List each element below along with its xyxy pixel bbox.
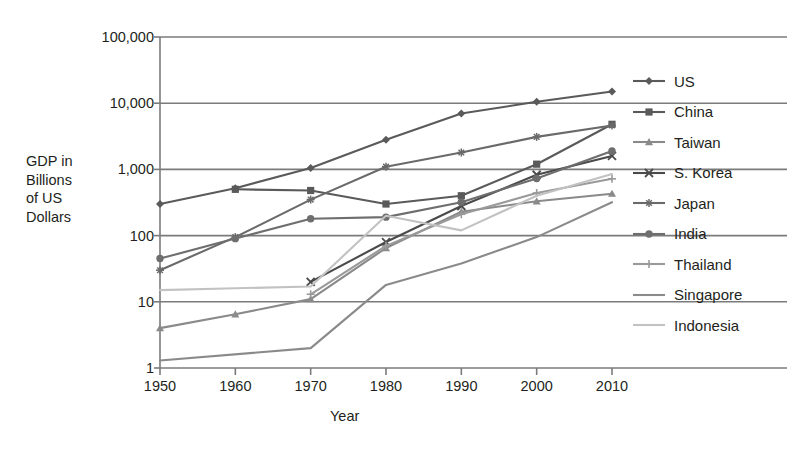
legend-item-singapore[interactable]: Singapore: [632, 280, 787, 311]
asterisk-marker-icon: [382, 163, 390, 171]
plus-marker-icon: [632, 257, 666, 271]
legend-item-india[interactable]: India: [632, 219, 787, 250]
x-tick-label: 1950: [144, 378, 176, 394]
diamond-marker-icon: [608, 88, 616, 96]
asterisk-marker-icon: [307, 196, 315, 204]
x-tick-label: 1960: [219, 378, 251, 394]
x-tick-label: 1990: [445, 378, 477, 394]
legend-item-label: Indonesia: [674, 317, 739, 334]
plus-marker-icon: [645, 260, 653, 268]
circle-marker-icon: [307, 215, 314, 222]
square-marker-icon: [533, 161, 540, 168]
circle-marker-icon: [533, 175, 540, 182]
legend-item-s-korea[interactable]: S. Korea: [632, 158, 787, 189]
circle-marker-icon: [645, 230, 652, 237]
legend-item-label: Singapore: [674, 286, 742, 303]
legend-item-label: S. Korea: [674, 164, 732, 181]
square-marker-icon: [307, 187, 314, 194]
legend-item-label: Taiwan: [674, 134, 721, 151]
series-us: [156, 88, 616, 208]
legend-item-label: US: [674, 73, 695, 90]
plus-marker-icon: [608, 175, 616, 183]
series-line: [235, 124, 612, 204]
line-marker-icon: [632, 288, 666, 302]
x-axis-title: Year: [330, 408, 359, 424]
y-tick-label: 1,000: [22, 161, 154, 177]
y-tick-label: 100,000: [22, 29, 154, 45]
diamond-marker-icon: [645, 77, 653, 85]
diamond-marker-icon: [156, 200, 164, 208]
legend-item-label: Japan: [674, 195, 715, 212]
y-axis-tick-labels: 1101001,00010,000100,000: [22, 0, 154, 449]
square-marker-icon: [382, 200, 389, 207]
chart-legend: USChinaTaiwanS. KoreaJapanIndiaThailandS…: [632, 66, 787, 341]
circle-marker-icon: [632, 227, 666, 241]
legend-item-indonesia[interactable]: Indonesia: [632, 310, 787, 341]
diamond-marker-icon: [533, 98, 541, 106]
square-marker-icon: [645, 108, 652, 115]
y-tick-label: 10: [22, 294, 154, 310]
legend-item-china[interactable]: China: [632, 97, 787, 128]
diamond-marker-icon: [307, 164, 315, 172]
x-tick-label: 2000: [521, 378, 553, 394]
x-tick-label: 1970: [295, 378, 327, 394]
y-tick-label: 1: [22, 360, 154, 376]
diamond-marker-icon: [632, 74, 666, 88]
legend-item-us[interactable]: US: [632, 66, 787, 97]
x-tick-label: 2010: [596, 378, 628, 394]
circle-marker-icon: [458, 198, 465, 205]
series-japan: [156, 122, 616, 275]
circle-marker-icon: [232, 235, 239, 242]
y-tick-label: 100: [22, 228, 154, 244]
diamond-marker-icon: [457, 109, 465, 117]
asterisk-marker-icon: [632, 196, 666, 210]
legend-item-label: China: [674, 103, 713, 120]
series-s-korea: [307, 152, 616, 286]
circle-marker-icon: [608, 147, 615, 154]
asterisk-marker-icon: [645, 199, 653, 207]
x-tick-label: 1980: [370, 378, 402, 394]
legend-item-label: Thailand: [674, 256, 732, 273]
y-tick-label: 10,000: [22, 95, 154, 111]
triangle-marker-icon: [632, 135, 666, 149]
series-line: [160, 92, 612, 205]
circle-marker-icon: [156, 255, 163, 262]
series-singapore: [160, 202, 612, 360]
legend-item-thailand[interactable]: Thailand: [632, 249, 787, 280]
legend-item-japan[interactable]: Japan: [632, 188, 787, 219]
square-marker-icon: [232, 186, 239, 193]
series-line: [160, 202, 612, 360]
series-taiwan: [156, 190, 616, 332]
square-marker-icon: [632, 105, 666, 119]
gdp-log-line-chart: GDP in Billions of US Dollars 1101001,00…: [0, 0, 790, 449]
asterisk-marker-icon: [156, 266, 164, 274]
square-marker-icon: [458, 192, 465, 199]
legend-item-label: India: [674, 225, 707, 242]
asterisk-marker-icon: [608, 122, 616, 130]
x-marker-icon: [632, 166, 666, 180]
legend-item-taiwan[interactable]: Taiwan: [632, 127, 787, 158]
diamond-marker-icon: [382, 136, 390, 144]
asterisk-marker-icon: [533, 133, 541, 141]
line-marker-icon: [632, 318, 666, 332]
asterisk-marker-icon: [457, 149, 465, 157]
